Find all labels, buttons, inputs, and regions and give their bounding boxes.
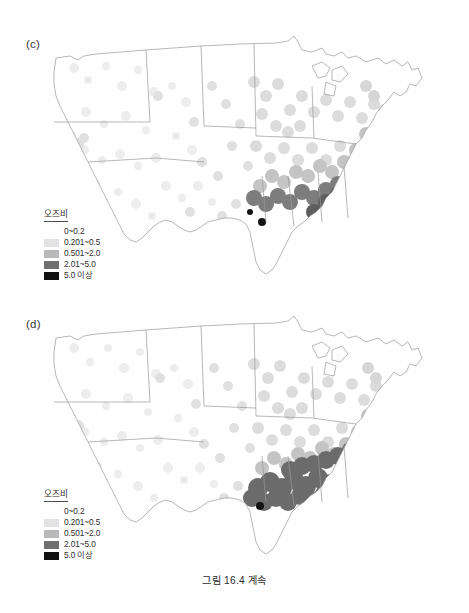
legend-label-4: 2.01~5.0: [64, 540, 96, 549]
legend-panel-d: 오즈비 0~0.2 0.201~0.5 0.501~2.0 2.01~5.0 5…: [44, 490, 160, 562]
legend-item: 0.501~2.0: [44, 249, 160, 260]
legend-title: 오즈비: [44, 210, 68, 222]
legend-label-3: 0.501~2.0: [64, 249, 100, 258]
figure-panel-c: (c): [0, 22, 469, 302]
legend-swatch-1: [44, 508, 59, 516]
legend-title: 오즈비: [44, 490, 68, 502]
legend-swatch-5: [44, 552, 59, 560]
legend-panel-c: 오즈비 0~0.2 0.201~0.5 0.501~2.0 2.01~5.0 5…: [44, 210, 160, 282]
legend-swatch-3: [44, 530, 59, 538]
legend-swatch-3: [44, 250, 59, 258]
legend-item: 5.0 이상: [44, 271, 160, 282]
legend-item: 2.01~5.0: [44, 260, 160, 271]
legend-label-3: 0.501~2.0: [64, 529, 100, 538]
legend-swatch-1: [44, 228, 59, 236]
legend-item: 0~0.2: [44, 507, 160, 518]
legend-item: 0.201~0.5: [44, 518, 160, 529]
legend-item: 5.0 이상: [44, 551, 160, 562]
legend-swatch-2: [44, 519, 59, 527]
legend-label-1: 0~0.2: [64, 507, 85, 516]
legend-swatch-2: [44, 239, 59, 247]
legend-swatch-4: [44, 261, 59, 269]
legend-label-5: 5.0 이상: [64, 551, 93, 560]
legend-item: 0.501~2.0: [44, 529, 160, 540]
legend-item: 2.01~5.0: [44, 540, 160, 551]
figure-panel-d: (d): [0, 302, 469, 582]
legend-swatch-5: [44, 272, 59, 280]
legend-label-5: 5.0 이상: [64, 271, 93, 280]
legend-label-1: 0~0.2: [64, 227, 85, 236]
figure-page: (c): [0, 0, 469, 613]
legend-item: 0.201~0.5: [44, 238, 160, 249]
legend-label-2: 0.201~0.5: [64, 518, 100, 527]
figure-caption: 그림 16.4 계속: [0, 572, 469, 587]
legend-label-4: 2.01~5.0: [64, 260, 96, 269]
legend-label-2: 0.201~0.5: [64, 238, 100, 247]
legend-swatch-4: [44, 541, 59, 549]
legend-item: 0~0.2: [44, 227, 160, 238]
